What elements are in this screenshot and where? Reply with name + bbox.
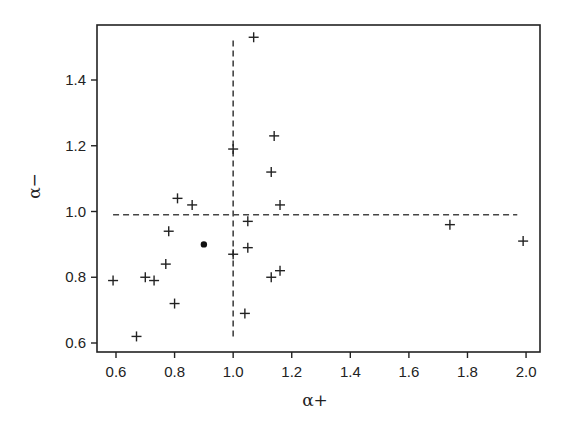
x-tick-label: 1.0 xyxy=(223,363,244,380)
plus-marker-icon xyxy=(187,200,197,210)
plus-marker-icon xyxy=(240,308,250,318)
y-tick-label: 0.8 xyxy=(65,268,86,285)
x-tick-label: 2.0 xyxy=(516,363,537,380)
plus-marker-icon xyxy=(243,216,253,226)
plus-marker-icon xyxy=(228,249,238,259)
y-tick-label: 1.2 xyxy=(65,137,86,154)
x-axis-label: α+ xyxy=(302,390,328,410)
x-axis: 0.60.81.01.21.41.61.82.0 xyxy=(106,352,537,380)
reference-lines xyxy=(113,41,517,337)
plus-marker-icon xyxy=(132,331,142,341)
plus-marker-icon xyxy=(243,243,253,253)
x-tick-label: 1.8 xyxy=(457,363,478,380)
plus-marker-icon xyxy=(275,266,285,276)
y-tick-label: 1.4 xyxy=(65,71,86,88)
x-tick-label: 1.4 xyxy=(340,363,361,380)
plus-marker-icon xyxy=(228,144,238,154)
x-tick-label: 0.8 xyxy=(164,363,185,380)
plus-marker-icon xyxy=(518,236,528,246)
plus-marker-icon xyxy=(275,200,285,210)
plus-marker-icon xyxy=(140,272,150,282)
plus-marker-icon xyxy=(161,259,171,269)
y-tick-label: 0.6 xyxy=(65,334,86,351)
y-tick-label: 1.0 xyxy=(65,203,86,220)
plus-marker-icon xyxy=(266,272,276,282)
plus-marker-icon xyxy=(173,193,183,203)
y-axis: 0.60.81.01.21.4 xyxy=(65,71,97,351)
plus-marker-icon xyxy=(249,32,259,42)
x-tick-label: 0.6 xyxy=(106,363,127,380)
plus-marker-icon xyxy=(269,131,279,141)
filled-dot-marker-icon xyxy=(201,241,207,247)
plus-marker-icon xyxy=(108,276,118,286)
plus-marker-icon xyxy=(149,276,159,286)
plot-frame xyxy=(97,25,540,352)
y-axis-label: α− xyxy=(24,173,44,199)
scatter-chart: 0.60.81.01.21.41.61.82.0 0.60.81.01.21.4… xyxy=(0,0,570,431)
x-tick-label: 1.2 xyxy=(281,363,302,380)
plus-marker-icon xyxy=(266,167,276,177)
plus-marker-icon xyxy=(164,226,174,236)
x-tick-label: 1.6 xyxy=(398,363,419,380)
plus-marker-icon xyxy=(170,299,180,309)
data-points xyxy=(108,32,528,341)
plus-marker-icon xyxy=(445,220,455,230)
